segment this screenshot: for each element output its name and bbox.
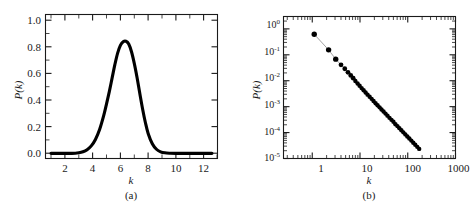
- svg-text:10-5: 10-5: [264, 151, 280, 163]
- data-point: [417, 147, 421, 151]
- panel-b-ytick-1-exp: -1: [274, 45, 280, 53]
- panel-b-ytick-0-exp: 0: [277, 18, 281, 26]
- panel-a-ytick-4: 0.8: [27, 41, 41, 53]
- panel-a-ytick-0: 0.0: [27, 147, 41, 159]
- panel-b-xtick-2: 100: [404, 162, 421, 174]
- panel-b-frame: [284, 17, 456, 159]
- panel-b-ytick-4-exp: -4: [274, 125, 280, 133]
- svg-text:10-1: 10-1: [264, 45, 280, 57]
- panel-a-ytick-3: 0.6: [27, 67, 41, 79]
- panel-b-ytick-5-exp: -5: [274, 151, 280, 159]
- panel-a-ylabel: P(k): [12, 80, 25, 100]
- data-point: [342, 66, 347, 71]
- panel-b-ytick-3-exp: -3: [274, 98, 280, 106]
- panel-b: 100 10-1 10-2 10-3 10-4 10-5 1: [238, 0, 476, 204]
- panel-b-xtick-1: 10: [361, 162, 373, 174]
- panel-a-caption: (a): [125, 189, 138, 202]
- panel-b-ytick-1-mant: 10: [264, 46, 274, 57]
- panel-a-ytick-1: 0.2: [27, 121, 41, 133]
- panel-a-xtick-5: 12: [198, 162, 209, 174]
- panel-a-ytick-2: 0.4: [27, 94, 41, 106]
- panel-a-xtick-0: 2: [62, 162, 68, 174]
- panel-b-ytick-3-mant: 10: [264, 99, 274, 110]
- data-point: [326, 47, 331, 52]
- panel-b-ytick-labels: 100 10-1 10-2 10-3 10-4 10-5: [264, 18, 280, 164]
- data-point: [333, 56, 338, 61]
- panel-a-svg: 0.0 0.2 0.4 0.6 0.8 1.0 2 4 6 8 10 12 k …: [0, 0, 238, 204]
- panel-b-xtick-0: 1: [318, 162, 324, 174]
- panel-a-xlabel: k: [129, 174, 135, 186]
- panel-b-xtick-3: 1000: [448, 162, 471, 174]
- data-point: [339, 62, 344, 67]
- panel-b-xlabel: k: [367, 174, 373, 186]
- panel-a-xtick-2: 6: [118, 162, 124, 174]
- panel-a-xtick-4: 10: [170, 162, 182, 174]
- panel-a-y-ticks: [46, 20, 218, 153]
- panel-b-ytick-4-mant: 10: [264, 126, 274, 137]
- panel-b-ylabel: P(k): [250, 80, 263, 100]
- panel-b-ticks: [284, 17, 456, 159]
- panel-a-frame: [46, 15, 218, 159]
- svg-text:100: 100: [267, 18, 281, 30]
- panel-b-points: [312, 32, 422, 152]
- panel-a-x-ticks: [51, 15, 217, 159]
- panel-a-xtick-1: 4: [90, 162, 96, 174]
- svg-text:10-2: 10-2: [264, 71, 280, 83]
- panel-a-curve: [51, 41, 212, 153]
- panel-a: 0.0 0.2 0.4 0.6 0.8 1.0 2 4 6 8 10 12 k …: [0, 0, 238, 204]
- panel-b-ytick-2-exp: -2: [274, 71, 280, 79]
- panel-b-ytick-5-mant: 10: [264, 152, 274, 163]
- svg-text:10-3: 10-3: [264, 98, 280, 110]
- svg-text:10-4: 10-4: [264, 125, 280, 137]
- panel-b-ytick-2-mant: 10: [264, 72, 274, 83]
- panel-a-xtick-3: 8: [145, 162, 151, 174]
- panel-a-ytick-5: 1.0: [27, 14, 41, 26]
- panel-b-caption: (b): [363, 189, 376, 202]
- panel-b-svg: 100 10-1 10-2 10-3 10-4 10-5 1: [238, 0, 476, 204]
- data-point: [312, 32, 317, 37]
- panel-b-ytick-0-mant: 10: [267, 19, 277, 30]
- figure-container: 0.0 0.2 0.4 0.6 0.8 1.0 2 4 6 8 10 12 k …: [0, 0, 476, 204]
